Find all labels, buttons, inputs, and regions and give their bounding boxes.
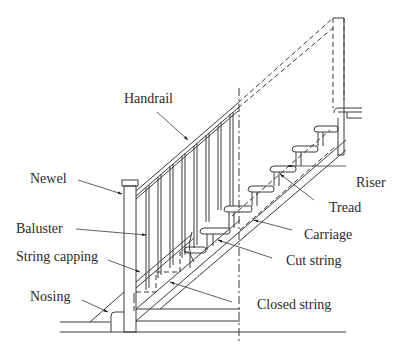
label-string-capping: String capping xyxy=(16,250,98,264)
underside-dashed xyxy=(232,130,336,230)
newel-post xyxy=(122,180,138,332)
floor-lines xyxy=(60,309,346,332)
top-landing xyxy=(334,108,362,118)
leader-lines xyxy=(76,112,346,312)
handrail xyxy=(136,103,238,199)
handrail-continuation xyxy=(238,18,333,108)
label-closed-string: Closed string xyxy=(257,298,331,312)
label-riser: Riser xyxy=(356,176,386,190)
bottom-step xyxy=(90,292,124,332)
label-carriage: Carriage xyxy=(304,228,352,242)
label-newel: Newel xyxy=(30,172,67,186)
label-tread: Tread xyxy=(329,201,361,215)
label-handrail: Handrail xyxy=(124,92,173,106)
label-cut-string: Cut string xyxy=(286,254,342,268)
label-nosing: Nosing xyxy=(30,290,70,304)
label-baluster: Baluster xyxy=(16,222,63,236)
